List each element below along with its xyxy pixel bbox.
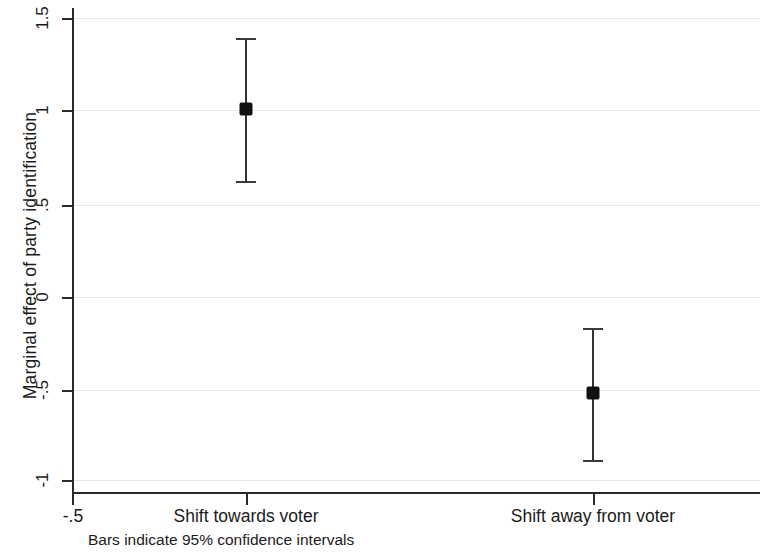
- data-point-marker: [587, 387, 600, 400]
- x-tick-mark-shift-towards-voter: [246, 494, 248, 505]
- errorbar-cap-upper: [236, 38, 256, 40]
- y-tick-label--1: -1: [26, 470, 60, 490]
- gridline-1.5: [74, 18, 760, 19]
- y-tick-mark-0.5: [62, 205, 74, 207]
- errorbar-cap-lower: [236, 181, 256, 183]
- y-tick-label-1: 1: [26, 100, 60, 120]
- y-tick-label-0.5: .5: [26, 195, 60, 215]
- y-tick-mark-1.5: [62, 18, 74, 20]
- gridline-1: [74, 110, 760, 111]
- x-tick-label-shift-away-from-voter: Shift away from voter: [511, 506, 675, 527]
- gridline-0.5: [74, 205, 760, 206]
- gridline--0.5: [74, 390, 760, 391]
- data-point-marker: [240, 102, 253, 115]
- x-tick-mark-shift-away-from-voter: [593, 494, 595, 505]
- x-tick-label-shift-towards-voter: Shift towards voter: [174, 506, 319, 527]
- y-tick-label--0.5: -.5: [26, 380, 60, 400]
- y-tick-mark--1: [62, 480, 74, 482]
- chart-footnote: Bars indicate 95% confidence intervals: [88, 531, 354, 549]
- x-tick-mark-origin: [72, 494, 74, 505]
- y-axis-line: [72, 8, 74, 494]
- errorbar-cap-lower: [583, 460, 603, 462]
- gridline--1: [74, 480, 760, 481]
- y-tick-mark-0: [62, 297, 74, 299]
- y-tick-mark--0.5: [62, 390, 74, 392]
- y-tick-label-0: 0: [26, 287, 60, 307]
- chart-figure: Marginal effect of party identification …: [0, 0, 775, 556]
- errorbar-cap-upper: [583, 328, 603, 330]
- x-axis-line: [72, 492, 760, 494]
- gridline-0: [74, 297, 760, 298]
- x-tick-label-origin: -.5: [63, 506, 83, 527]
- y-tick-mark-1: [62, 110, 74, 112]
- y-tick-label-1.5: 1.5: [26, 8, 60, 28]
